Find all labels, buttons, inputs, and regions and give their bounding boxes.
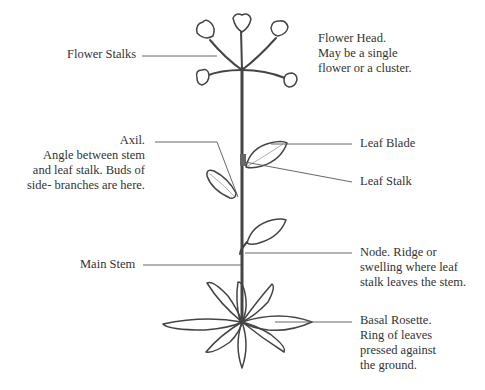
label-basal-rosette: Basal Rosette. Ring of leaves pressed ag…: [360, 313, 436, 373]
label-line: stalk leaves the stem.: [360, 275, 466, 290]
label-line: Angle between stem: [27, 148, 145, 163]
label-line: Flower Head.: [318, 31, 412, 46]
label-node: Node. Ridge or swelling where leaf stalk…: [360, 245, 466, 290]
basal-rosette-drawing: [163, 282, 312, 368]
leader-lines: [142, 56, 352, 322]
label-line: side- branches are here.: [27, 178, 145, 193]
label-line: and leaf stalk. Buds of: [27, 163, 145, 178]
label-line: flower or a cluster.: [318, 61, 412, 76]
label-line: the ground.: [360, 358, 436, 373]
label-leaf-blade: Leaf Blade: [360, 136, 415, 151]
label-flower-head: Flower Head. May be a single flower or a…: [318, 31, 412, 76]
label-line: swelling where leaf: [360, 260, 466, 275]
label-flower-stalks: Flower Stalks: [67, 47, 136, 62]
label-line: Axil.: [27, 133, 145, 148]
label-line: May be a single: [318, 46, 412, 61]
label-line: pressed against: [360, 343, 436, 358]
label-line: Ring of leaves: [360, 328, 436, 343]
label-line: Node. Ridge or: [360, 245, 466, 260]
label-leaf-stalk: Leaf Stalk: [360, 174, 412, 189]
label-line: Basal Rosette.: [360, 313, 436, 328]
label-main-stem: Main Stem: [80, 257, 135, 272]
plant-diagram: Flower Stalks Flower Head. May be a sing…: [0, 0, 485, 390]
label-axil: Axil. Angle between stem and leaf stalk.…: [27, 133, 145, 193]
